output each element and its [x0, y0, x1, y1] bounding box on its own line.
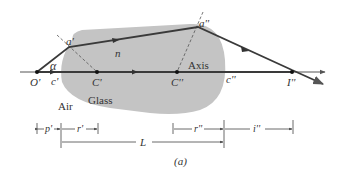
label-length: L [139, 136, 146, 148]
label-index: n [115, 47, 121, 59]
label-p-prime: p' [44, 123, 53, 134]
label-center-first: C' [92, 76, 102, 88]
label-r-prime: r' [77, 123, 84, 134]
optics-diagram: a' a'' n α O' c' C' C'' Axis c'' I'' Gla… [0, 0, 357, 172]
label-vertex-first: a' [66, 35, 75, 47]
point-center-second [175, 70, 179, 74]
label-image: I'' [286, 76, 296, 88]
point-object [35, 70, 39, 74]
label-vertex-second: a'' [199, 17, 210, 29]
label-angle: α [50, 59, 57, 73]
label-i-double: i'' [253, 123, 261, 134]
label-object: O' [30, 76, 41, 88]
label-center-second: C'' [171, 76, 184, 88]
label-air: Air [58, 100, 73, 112]
point-center-first [95, 70, 99, 74]
label-c-first: c' [51, 75, 59, 87]
label-glass: Glass [88, 94, 112, 106]
label-r-double: r'' [194, 123, 203, 134]
label-axis: Axis [188, 59, 209, 71]
label-c-second: c'' [226, 73, 236, 85]
point-image [290, 70, 294, 74]
figure-caption: (a) [174, 155, 187, 168]
